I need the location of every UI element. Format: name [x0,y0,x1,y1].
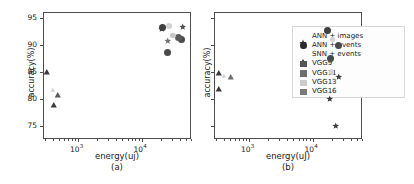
y-axis-tick-label: 90 [9,40,37,49]
data-point-circle [164,49,171,56]
data-point-star [326,87,334,95]
x-axis-minor-tick [161,139,162,141]
x-axis-minor-tick [235,139,236,141]
legend-label: SNN + events [312,50,361,58]
x-axis-minor-tick [122,139,123,141]
y-axis-tick [211,72,214,73]
legend-label: ANN + images [312,32,363,40]
x-axis-minor-tick [97,139,98,141]
x-axis-minor-tick [135,139,136,141]
x-axis-minor-tick [343,139,344,141]
legend-marker-triangle-icon [299,51,308,60]
data-point-star [335,65,343,73]
x-axis-minor-tick [132,139,133,141]
x-axis-minor-tick [59,139,60,141]
data-point-circle [170,33,176,39]
x-axis-minor-tick [108,139,109,141]
x-axis-tick [142,139,143,142]
x-axis-minor-tick [357,139,358,141]
x-axis-tick [313,139,314,142]
x-axis-minor-tick [279,139,280,141]
y-axis-tick [40,45,43,46]
x-axis-minor-tick [224,139,225,141]
x-axis-tick-label: 104 [305,143,318,154]
data-point-triangle [227,65,235,73]
legend-marker-circle-icon [300,42,307,49]
x-axis-minor-tick [362,139,363,141]
x-axis-minor-tick [239,139,240,141]
x-axis-minor-tick [351,139,352,141]
y-axis-tick [211,45,214,46]
x-axis-minor-tick [243,139,244,141]
y-axis-tick [211,126,214,127]
chart-legend: ANN + imagesANN + eventsSNN + eventsVGG9… [292,26,405,98]
y-axis-tick [40,18,43,19]
y-axis-tick-label: 75 [9,121,37,130]
subplot-label-a: (a) [43,162,191,172]
y-axis-tick-label: 95 [9,13,37,22]
x-axis-tick-label: 103 [241,143,254,154]
y-axis-tick [211,18,214,19]
x-axis-minor-tick [332,139,333,141]
data-point-triangle [50,78,56,84]
x-axis-minor-tick [186,139,187,141]
x-axis-minor-tick [303,139,304,141]
subplot-label-b: (b) [214,162,362,172]
x-axis-minor-tick [128,139,129,141]
x-axis-tick-label: 103 [70,143,83,154]
x-axis-minor-tick [310,139,311,141]
y-axis-tick-label: 85 [9,67,37,76]
legend-label: VGG13 [312,78,337,86]
x-axis-minor-tick [45,139,46,141]
x-axis-minor-tick [246,139,247,141]
y-axis-tick [211,99,214,100]
data-point-circle [324,27,331,34]
data-point-circle [327,55,334,62]
legend-marker-square-icon [300,61,307,68]
x-axis-minor-tick [68,139,69,141]
y-axis-tick [40,126,43,127]
x-axis-minor-tick [53,139,54,141]
x-axis-tick-label: 104 [134,143,147,154]
x-axis-minor-tick [230,139,231,141]
legend-marker-square-icon [300,80,307,87]
x-axis-minor-tick [299,139,300,141]
x-axis-minor-tick [139,139,140,141]
panel-a: accuracy(%) energy(uj) (a) 9590858075103… [0,0,202,184]
legend-marker-square-icon [300,89,307,96]
data-point-circle [166,23,172,29]
x-axis-minor-tick [268,139,269,141]
x-axis-minor-tick [293,139,294,141]
panel-b: accuracy(%) energy(uJ) (b) ANN + imagesA… [200,0,414,184]
x-axis-tick [78,139,79,142]
x-axis-minor-tick [216,139,217,141]
data-point-star [179,15,187,23]
x-axis-minor-tick [116,139,117,141]
data-point-triangle [221,64,227,70]
y-axis-tick [40,99,43,100]
x-axis-label-a: energy(uj) [43,151,191,161]
x-axis-label-b: energy(uJ) [214,151,362,161]
x-axis-minor-tick [64,139,65,141]
data-point-star [332,114,340,122]
x-axis-minor-tick [180,139,181,141]
x-axis-minor-tick [191,139,192,141]
x-axis-tick [249,139,250,142]
x-axis-minor-tick [306,139,307,141]
x-axis-minor-tick [72,139,73,141]
y-axis-tick-label: 80 [9,94,37,103]
legend-marker-star-icon [299,32,308,41]
data-point-triangle [43,61,51,69]
x-axis-minor-tick [172,139,173,141]
x-axis-minor-tick [75,139,76,141]
figure-container: accuracy(%) energy(uj) (a) 9590858075103… [0,0,414,184]
x-axis-minor-tick [287,139,288,141]
legend-marker-square-icon [300,70,307,77]
